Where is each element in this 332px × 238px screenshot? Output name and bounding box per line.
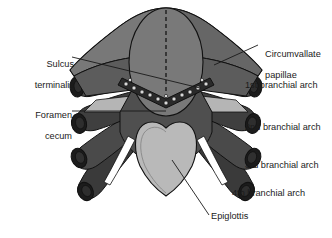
label-arch-4: 4th branchial arch [232, 188, 305, 199]
label-arch-1: 1st branchial arch [245, 80, 318, 91]
label-epiglottis: Epiglottis [211, 211, 248, 222]
label-circumvallate-papillae-line1: Circumvallate [265, 49, 321, 59]
label-circumvallate-papillae: Circumvallate papillae [260, 38, 332, 80]
label-foramen-cecum: Foramen cecum [2, 99, 72, 141]
label-foramen-cecum-line1: Foramen [35, 110, 72, 120]
label-sulcus-terminalis-line1: Sulcus [46, 59, 74, 69]
label-circumvallate-papillae-line2: papillae [265, 70, 297, 80]
label-sulcus-terminalis-line2: terminalis [35, 80, 74, 90]
label-foramen-cecum-line2: cecum [45, 131, 72, 141]
label-sulcus-terminalis: Sulcus terminalis [4, 48, 74, 90]
label-arch-2: 2nd branchial arch [245, 122, 321, 133]
label-arch-3: 3rd branchial arch [245, 160, 319, 171]
